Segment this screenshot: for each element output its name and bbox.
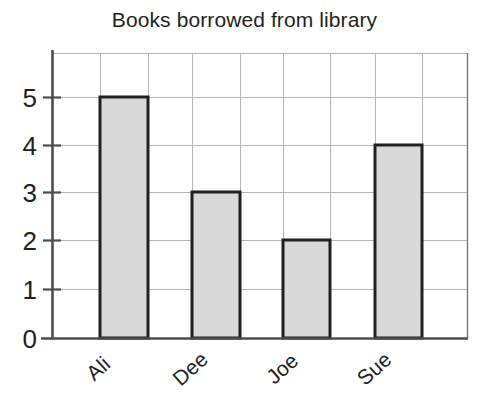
bar-sue[interactable] bbox=[375, 145, 422, 338]
bar-dee[interactable] bbox=[192, 192, 240, 338]
x-tick-label-dee: Dee bbox=[168, 347, 212, 390]
y-tick-label: 0 bbox=[23, 324, 37, 354]
y-tick-label: 3 bbox=[23, 178, 37, 208]
bar-joe[interactable] bbox=[283, 240, 330, 338]
y-tick-label: 2 bbox=[23, 226, 37, 256]
x-tick-label-ali: Ali bbox=[82, 352, 115, 385]
x-tick-label-joe: Joe bbox=[262, 349, 303, 389]
y-tick-label: 1 bbox=[23, 275, 37, 305]
y-tick-label: 4 bbox=[23, 131, 37, 161]
x-axis-tick-labels: Ali Dee Joe Sue bbox=[82, 347, 396, 390]
bar-chart: Books borrowed from library bbox=[0, 0, 489, 397]
x-tick-label-sue: Sue bbox=[352, 347, 395, 389]
bar-series bbox=[100, 97, 422, 338]
chart-plot-area: 5 4 3 2 1 0 Ali Dee Joe Sue bbox=[0, 0, 489, 397]
y-axis-tick-labels: 5 4 3 2 1 0 bbox=[23, 83, 37, 354]
y-tick-label: 5 bbox=[23, 83, 37, 113]
bar-ali[interactable] bbox=[100, 97, 148, 338]
